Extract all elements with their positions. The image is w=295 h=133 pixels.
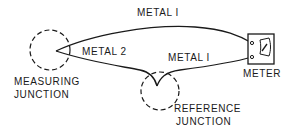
meter-terminal-lower [250,55,253,58]
label-metal-2: METAL 2 [82,46,127,57]
label-measuring-line1: MEASURING [14,76,80,87]
meter-icon [248,34,274,64]
label-reference-line1: REFERENCE [174,103,241,114]
label-meter: METER [243,68,281,79]
label-metal-1-lower: METAL I [168,52,210,63]
label-measuring-line2: JUNCTION [14,89,69,100]
label-reference-line2: JUNCTION [176,116,231,127]
label-metal-1-top: METAL I [137,7,179,18]
measuring-junction-circle [30,30,70,70]
thermocouple-diagram: METAL I METAL 2 METAL I MEASURING JUNCTI… [0,0,295,133]
meter-terminal-upper [250,41,253,44]
